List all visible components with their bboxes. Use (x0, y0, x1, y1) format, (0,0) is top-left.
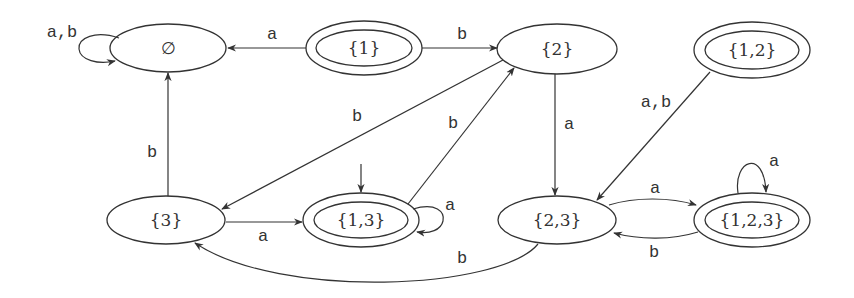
edge-2-3-to-1-2-3: a (609, 179, 696, 206)
edge-1-3-to-2: b (408, 68, 514, 204)
state-empty: ∅ (110, 24, 226, 72)
edge-label: a (267, 25, 277, 44)
edge-label: b (448, 114, 458, 133)
edge-label: a (769, 152, 779, 171)
edge-1-to-empty: a (228, 25, 306, 49)
edge-3-to-empty: b (147, 73, 168, 196)
edge-label: b (457, 249, 467, 268)
edge-3-to-1-3: a (226, 222, 302, 246)
edge-path (413, 207, 443, 233)
state-1-label: {1} (348, 38, 380, 58)
edge-path (737, 163, 766, 193)
state-3: {3} (107, 196, 225, 244)
edge-1-to-2: b (422, 25, 497, 49)
edge-label: a (564, 115, 574, 134)
edge-2-to-3: b (222, 60, 503, 209)
state-2-3-label: {2,3} (533, 210, 582, 230)
edge-label: a,b (47, 23, 78, 42)
edge-1-3-to-1-3: a (413, 196, 455, 233)
state-1-2-label: {1,2} (728, 40, 777, 60)
dfa-diagram: ∅ {1} {2} {1,2} {3} {1,3} {2,3} {1,2,3} (0, 0, 854, 298)
edge-empty-to-empty: a,b (47, 23, 119, 63)
edge-label: a (258, 227, 268, 246)
state-1-3: {1,3} (303, 193, 419, 247)
state-1-3-label: {1,3} (337, 210, 386, 230)
edge-1-2-3-to-2-3: b (614, 232, 698, 262)
edge-path (614, 232, 698, 238)
edge-label: b (457, 25, 467, 44)
edge-1-2-3-to-1-2-3: a (737, 152, 779, 194)
state-empty-label: ∅ (161, 38, 176, 58)
edge-label: a (445, 196, 455, 215)
state-2-label: {2} (541, 39, 573, 59)
edge-label: b (352, 107, 362, 126)
edge-label: a (650, 179, 660, 198)
edge-label: b (649, 243, 659, 262)
edge-2-3-to-3: b (195, 243, 538, 282)
state-3-label: {3} (150, 210, 182, 230)
state-2: {2} (497, 24, 617, 74)
edge-path (195, 243, 538, 282)
state-1-2: {1,2} (694, 22, 810, 78)
state-1-2-3-label: {1,2,3} (720, 210, 785, 230)
edge-path (609, 199, 696, 205)
edge-label: a,b (641, 93, 672, 112)
edge-label: b (147, 143, 157, 162)
state-1: {1} (306, 21, 422, 75)
edge-path (222, 60, 503, 209)
edge-path (408, 68, 514, 204)
state-1-2-3: {1,2,3} (694, 193, 810, 247)
state-2-3: {2,3} (498, 196, 616, 244)
edge-2-to-2-3: a (555, 74, 574, 195)
edge-path (79, 35, 119, 63)
